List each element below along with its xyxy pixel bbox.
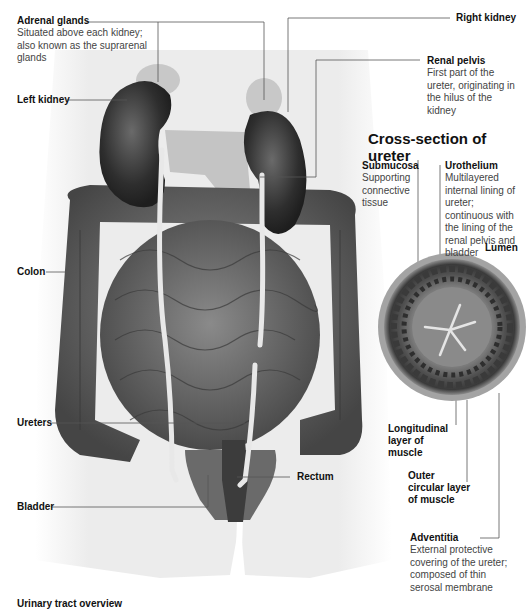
label-renal-pelvis: Renal pelvis First part of the ureter, o…: [427, 55, 522, 117]
label-name: Bladder: [17, 501, 54, 513]
label-desc: External protective covering of the uret…: [410, 544, 515, 594]
label-name: Right kidney: [456, 12, 516, 24]
label-desc: Supporting connective tissue: [362, 172, 417, 210]
label-name: Ureters: [17, 417, 52, 429]
label-adventitia: Adventitia External protective covering …: [410, 532, 515, 594]
label-name: Renal pelvis: [427, 55, 522, 67]
label-ureters: Ureters: [17, 417, 52, 429]
label-name: Lumen: [485, 242, 518, 254]
label-name: Urothelium: [445, 160, 525, 172]
label-name: Adventitia: [410, 532, 515, 544]
label-name: Outer circular layer of muscle: [408, 470, 473, 506]
label-rectum: Rectum: [297, 471, 334, 483]
label-submucosa: Submucosa Supporting connective tissue: [362, 160, 417, 210]
label-desc: Situated above each kidney; also known a…: [17, 27, 152, 65]
cross-section-title: Cross-section of ureter: [368, 130, 527, 164]
label-desc: First part of the ureter, originating in…: [427, 67, 522, 117]
label-longitudinal-muscle: Longitudinal layer of muscle: [388, 423, 458, 459]
label-right-kidney: Right kidney: [456, 12, 516, 24]
label-bladder: Bladder: [17, 501, 54, 513]
label-colon: Colon: [17, 266, 45, 278]
clipped-footer-heading: Urinary tract overview: [17, 598, 122, 609]
label-name: Submucosa: [362, 160, 417, 172]
label-name: Colon: [17, 266, 45, 278]
label-name: Longitudinal layer of muscle: [388, 423, 458, 459]
label-outer-circular-muscle: Outer circular layer of muscle: [408, 470, 473, 506]
ureter-cross-section: [378, 253, 526, 401]
label-name: Rectum: [297, 471, 334, 483]
label-adrenal-glands: Adrenal glands Situated above each kidne…: [17, 15, 152, 65]
label-name: Left kidney: [17, 94, 70, 106]
label-name: Adrenal glands: [17, 15, 152, 27]
label-lumen: Lumen: [485, 242, 518, 254]
label-left-kidney: Left kidney: [17, 94, 70, 106]
